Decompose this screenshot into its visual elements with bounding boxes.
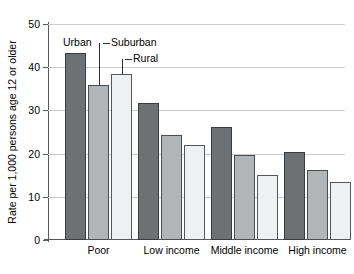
y-tick-mark xyxy=(43,197,48,198)
callout-suburban: Suburban xyxy=(111,36,157,48)
y-axis-title: Rate per 1,000 persons age 12 or older xyxy=(4,24,20,240)
bar-group xyxy=(211,24,278,240)
callout-rural: Rural xyxy=(133,52,158,64)
leader-rural-vertical xyxy=(122,59,123,74)
y-tick-label: 50 xyxy=(28,18,40,30)
y-tick-label: 40 xyxy=(28,61,40,73)
bar-suburban-poor xyxy=(88,85,109,240)
plot-area: 01020304050 PoorLow incomeMiddle incomeH… xyxy=(48,24,345,240)
bar-urban-low-income xyxy=(138,103,159,240)
bar-rural-poor xyxy=(111,74,132,240)
y-tick-label: 10 xyxy=(28,191,40,203)
y-tick-mark xyxy=(43,67,48,68)
bar-urban-high-income xyxy=(284,152,305,240)
leader-suburban-horizontal xyxy=(103,43,110,44)
y-axis-line xyxy=(48,22,49,242)
bar-urban-poor xyxy=(65,53,86,240)
y-tick-label: 20 xyxy=(28,148,40,160)
bar-rural-low-income xyxy=(184,145,205,240)
leader-suburban-vertical xyxy=(99,43,100,85)
grouped-bar-chart: Rate per 1,000 persons age 12 or older 0… xyxy=(0,0,354,274)
y-axis-title-text: Rate per 1,000 persons age 12 or older xyxy=(6,40,18,223)
bar-group xyxy=(284,24,351,240)
bar-suburban-middle-income xyxy=(234,155,255,240)
y-tick-label: 30 xyxy=(28,104,40,116)
x-axis-label: High income xyxy=(272,244,354,256)
callout-urban: Urban xyxy=(63,36,92,48)
y-tick-mark xyxy=(43,240,48,241)
bar-suburban-low-income xyxy=(161,135,182,240)
bar-urban-middle-income xyxy=(211,127,232,240)
y-tick-row: 0 xyxy=(48,240,345,241)
bar-rural-high-income xyxy=(330,182,351,240)
bar-suburban-high-income xyxy=(307,170,328,240)
bar-rural-middle-income xyxy=(257,175,278,240)
leader-rural-horizontal xyxy=(125,59,132,60)
y-tick-mark xyxy=(43,110,48,111)
y-tick-mark xyxy=(43,24,48,25)
y-tick-mark xyxy=(43,154,48,155)
y-tick-label: 0 xyxy=(34,234,40,246)
